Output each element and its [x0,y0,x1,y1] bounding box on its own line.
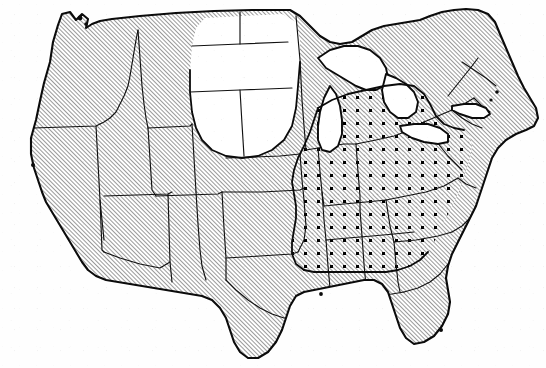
map-base-layer [0,0,546,368]
us-thematic-map-svg [0,0,546,368]
map-figure [0,0,546,368]
zone-unshaded-region [190,14,300,158]
